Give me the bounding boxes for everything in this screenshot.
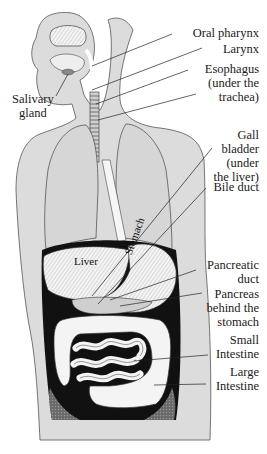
label-larynx: Larynx [223, 42, 259, 56]
liver-label: Liver [74, 255, 98, 267]
label-esophagus: Esophagus (under the trachea) [205, 62, 259, 104]
label-oral-pharynx: Oral pharynx [193, 26, 259, 40]
label-pancreatic-duct: Pancreatic duct [207, 258, 259, 286]
label-salivary-gland: Salivary gland [12, 92, 54, 120]
label-pancreas: Pancreas behind the stomach [207, 287, 259, 329]
label-bile-duct: Bile duct [214, 180, 259, 194]
label-small-intestine: Small Intestine [216, 333, 259, 361]
salivary-gland [62, 69, 74, 75]
nasal-cavity [50, 26, 86, 47]
label-large-intestine: Large Intestine [216, 365, 259, 393]
label-gall-bladder: Gall bladder (under the liver) [214, 128, 259, 184]
